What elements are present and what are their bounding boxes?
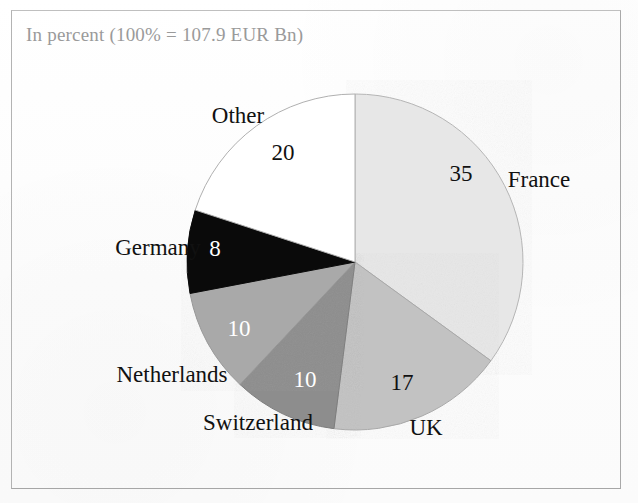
pie-value-switzerland: 10 bbox=[294, 367, 317, 393]
pie-value-france: 35 bbox=[450, 161, 473, 187]
chart-screenshot: In percent (100% = 107.9 EUR Bn) bbox=[0, 0, 638, 503]
pie-label-uk: UK bbox=[409, 415, 442, 441]
pie-chart-svg bbox=[0, 0, 638, 503]
pie-chart: 35 17 10 10 8 20 Other France UK Switzer… bbox=[0, 0, 638, 503]
pie-value-uk: 17 bbox=[391, 370, 414, 396]
pie-label-france: France bbox=[508, 167, 571, 193]
pie-label-other: Other bbox=[212, 103, 264, 129]
pie-label-netherlands: Netherlands bbox=[116, 362, 227, 388]
pie-label-switzerland: Switzerland bbox=[203, 410, 313, 436]
pie-value-germany: 8 bbox=[209, 236, 221, 262]
pie-value-netherlands: 10 bbox=[228, 316, 251, 342]
pie-label-germany: Germany bbox=[115, 235, 201, 261]
pie-value-other: 20 bbox=[272, 140, 295, 166]
